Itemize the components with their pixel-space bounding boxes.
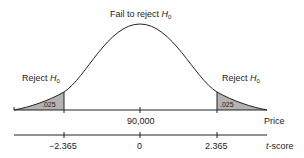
fail-to-reject-label: Fail to reject H0: [110, 10, 171, 20]
right-reject-label: Reject H0: [222, 74, 260, 84]
left-tail-area: .025: [42, 101, 56, 108]
bell-curve: [14, 24, 267, 110]
t-tick-center: 0: [137, 142, 142, 151]
price-axis-label: Price: [264, 117, 285, 126]
right-tail-area: .025: [220, 101, 234, 108]
t-tick-right: 2.365: [205, 142, 228, 151]
t-tick-left: −2.365: [49, 142, 77, 151]
t-score-axis-label: t-score: [266, 142, 294, 151]
left-reject-label: Reject H0: [22, 74, 60, 84]
price-center-value: 90,000: [127, 117, 155, 126]
left-rejection-region: [14, 92, 64, 110]
